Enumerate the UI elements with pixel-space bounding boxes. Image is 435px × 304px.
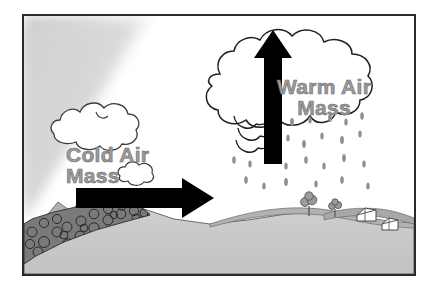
cumulonimbus-storm-cloud — [206, 30, 372, 153]
house — [382, 218, 398, 230]
cold-air-cloud-puff — [118, 162, 153, 185]
illustration-frame: Cold Air Mass Warm Air Mass — [22, 14, 416, 276]
diagram-canvas: Cold Air Mass Warm Air Mass — [0, 0, 435, 304]
weather-scene — [24, 16, 414, 274]
